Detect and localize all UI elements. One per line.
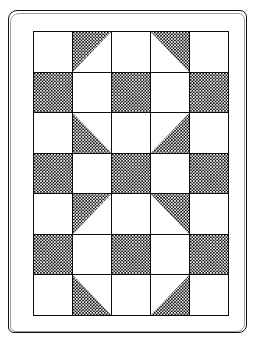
quilt-patch-r6-c2 — [73, 235, 111, 275]
quilt-patch-r4-c5 — [190, 154, 228, 194]
quilt-patch-r6-c3 — [112, 235, 150, 275]
quilt-patch-r1-c5 — [190, 32, 228, 72]
quilt-patch-r7-c4 — [151, 275, 189, 315]
quilt-patch-r1-c4 — [151, 32, 189, 72]
quilt-patch-r6-c4 — [151, 235, 189, 275]
quilt-patch-r7-c3 — [112, 275, 150, 315]
quilt-patch-r7-c2 — [73, 275, 111, 315]
quilt-patch-r2-c4 — [151, 73, 189, 113]
quilt-patch-r7-c1 — [34, 275, 72, 315]
quilt-patch-r4-c4 — [151, 154, 189, 194]
quilt-patch-r3-c3 — [112, 113, 150, 153]
quilt-patch-grid — [33, 31, 229, 316]
quilt-patch-r5-c2 — [73, 194, 111, 234]
quilt-patch-r3-c2 — [73, 113, 111, 153]
quilt-patch-r6-c1 — [34, 235, 72, 275]
quilt-patch-r3-c4 — [151, 113, 189, 153]
quilt-illustration — [0, 0, 255, 341]
quilt-patch-r4-c3 — [112, 154, 150, 194]
quilt-patch-r5-c4 — [151, 194, 189, 234]
quilt-patch-r1-c1 — [34, 32, 72, 72]
quilt-patch-r5-c1 — [34, 194, 72, 234]
quilt-patch-r2-c3 — [112, 73, 150, 113]
quilt-patch-r6-c5 — [190, 235, 228, 275]
quilt-patch-r7-c5 — [190, 275, 228, 315]
quilt-patch-r2-c2 — [73, 73, 111, 113]
quilt-patch-r4-c1 — [34, 154, 72, 194]
quilt-patch-r5-c3 — [112, 194, 150, 234]
quilt-patch-r3-c1 — [34, 113, 72, 153]
quilt-patch-r1-c2 — [73, 32, 111, 72]
quilt-patch-r4-c2 — [73, 154, 111, 194]
quilt-patch-r2-c5 — [190, 73, 228, 113]
quilt-patch-r1-c3 — [112, 32, 150, 72]
quilt-patch-r2-c1 — [34, 73, 72, 113]
quilt-patch-r5-c5 — [190, 194, 228, 234]
quilt-patch-r3-c5 — [190, 113, 228, 153]
